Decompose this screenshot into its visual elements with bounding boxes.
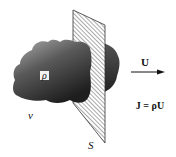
density-label: ρ <box>41 70 47 81</box>
volume-label: v <box>28 109 33 121</box>
cloud-volume <box>13 40 91 103</box>
flux-diagram: ρ v S U J = ρU <box>0 0 176 157</box>
velocity-label: U <box>141 56 149 68</box>
surface-label: S <box>88 139 94 151</box>
flux-equation: J = ρU <box>136 100 164 111</box>
arrow-head-icon <box>157 70 165 75</box>
